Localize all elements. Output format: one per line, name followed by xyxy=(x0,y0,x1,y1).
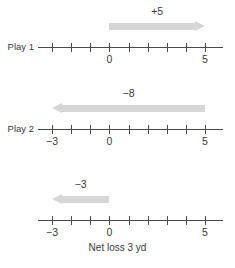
tick-mark xyxy=(129,125,130,134)
arrow-shaft xyxy=(62,196,109,203)
tick-mark xyxy=(186,125,187,134)
arrow-head xyxy=(52,194,62,204)
arrow-play-1 xyxy=(109,21,205,32)
arrow-label-play-2: −8 xyxy=(109,87,149,99)
arrow-head xyxy=(52,103,62,113)
tick-mark xyxy=(186,216,187,225)
tick-label: 0 xyxy=(97,54,121,65)
arrow-play-2 xyxy=(52,103,205,114)
axis-line-net-result xyxy=(38,220,223,221)
row-label-play-2: Play 2 xyxy=(0,123,34,134)
tick-label: 5 xyxy=(193,227,217,238)
tick-mark xyxy=(90,125,91,134)
axis-line-play-2 xyxy=(38,129,223,130)
tick-mark xyxy=(109,125,110,134)
tick-mark xyxy=(52,216,53,225)
arrow-head xyxy=(195,21,205,31)
figure-caption: Net loss 3 yd xyxy=(0,242,235,254)
tick-mark xyxy=(71,216,72,225)
tick-mark xyxy=(129,216,130,225)
tick-mark xyxy=(90,43,91,52)
tick-mark xyxy=(52,125,53,134)
tick-mark xyxy=(109,43,110,52)
tick-label: 5 xyxy=(193,54,217,65)
tick-label: 0 xyxy=(97,227,121,238)
tick-mark xyxy=(148,43,149,52)
axis-line-play-1 xyxy=(38,47,223,48)
tick-mark xyxy=(167,125,168,134)
arrow-shaft xyxy=(62,105,205,112)
tick-mark xyxy=(52,43,53,52)
tick-mark xyxy=(148,125,149,134)
tick-label: −3 xyxy=(40,136,64,147)
arrow-net-result xyxy=(52,194,109,205)
tick-mark xyxy=(129,43,130,52)
number-line-figure: +5 Play 1 05 −8 Play 2 −305 −3 xyxy=(0,0,235,268)
number-line-play-1: +5 Play 1 05 xyxy=(0,0,235,90)
tick-label: −3 xyxy=(40,227,64,238)
number-line-play-2: −8 Play 2 −305 xyxy=(0,85,235,175)
tick-mark xyxy=(71,43,72,52)
tick-mark xyxy=(186,43,187,52)
tick-mark xyxy=(109,216,110,225)
arrow-label-play-1: +5 xyxy=(137,5,177,17)
tick-mark xyxy=(148,216,149,225)
number-line-net-result: −3 −305 Net loss 3 yd xyxy=(0,175,235,268)
tick-mark xyxy=(167,43,168,52)
tick-mark xyxy=(205,216,206,225)
arrow-shaft xyxy=(109,23,195,30)
tick-mark xyxy=(71,125,72,134)
tick-mark xyxy=(90,216,91,225)
tick-label: 5 xyxy=(193,136,217,147)
arrow-label-net-result: −3 xyxy=(61,178,101,190)
tick-mark xyxy=(167,216,168,225)
tick-mark xyxy=(205,125,206,134)
tick-label: 0 xyxy=(97,136,121,147)
tick-mark xyxy=(205,43,206,52)
row-label-play-1: Play 1 xyxy=(0,41,34,52)
